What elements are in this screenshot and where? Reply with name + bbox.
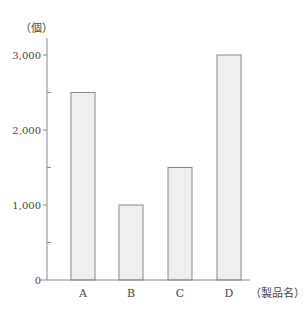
y-ticks: 01,0002,0003,000 bbox=[12, 50, 51, 286]
y-tick-label: 3,000 bbox=[12, 50, 41, 61]
bar-b bbox=[119, 205, 143, 280]
x-tick-label-c: C bbox=[176, 287, 184, 300]
x-axis-label: （製品名） bbox=[250, 286, 305, 300]
x-tick-label-d: D bbox=[225, 287, 234, 300]
y-axis-unit-label: （個） bbox=[20, 22, 53, 35]
bars-group bbox=[71, 55, 241, 280]
x-tick-label-a: A bbox=[78, 287, 88, 300]
bar-d bbox=[217, 55, 241, 280]
y-tick-label: 2,000 bbox=[12, 125, 41, 136]
x-tick-labels: ABCD bbox=[78, 287, 234, 300]
bar-chart: 01,0002,0003,000 ABCD （個） （製品名） bbox=[0, 0, 306, 316]
bar-c bbox=[168, 168, 192, 281]
y-tick-label: 1,000 bbox=[12, 200, 41, 211]
bar-a bbox=[71, 93, 95, 281]
x-tick-label-b: B bbox=[127, 287, 135, 300]
